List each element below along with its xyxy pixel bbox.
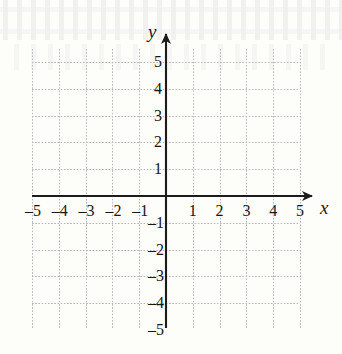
x-tick-label-4: 4 <box>264 203 282 219</box>
y-tick-label-2: 2 <box>140 134 162 150</box>
y-tick-label-3: 3 <box>140 108 162 124</box>
x-tick-label-1: 1 <box>184 203 202 219</box>
x-tick-label--4: –4 <box>49 203 71 219</box>
y-tick-label--5: –5 <box>138 322 164 338</box>
x-axis-label: x <box>320 198 328 217</box>
y-axis-label: y <box>148 22 156 41</box>
x-tick-label--3: –3 <box>76 203 98 219</box>
x-tick-label--1: –1 <box>129 203 151 219</box>
y-tick-label-4: 4 <box>140 81 162 97</box>
axes-layer <box>0 0 342 354</box>
coordinate-plane-figure: y x 54321–1–2–3–4–512345–5–4–3–2–1 <box>0 0 342 354</box>
x-tick-label-2: 2 <box>211 203 229 219</box>
y-tick-label--2: –2 <box>138 242 164 258</box>
y-tick-label--4: –4 <box>138 295 164 311</box>
x-tick-label-3: 3 <box>237 203 255 219</box>
y-tick-label-5: 5 <box>140 54 162 70</box>
x-tick-label-5: 5 <box>291 203 309 219</box>
y-tick-label--3: –3 <box>138 268 164 284</box>
x-tick-label--5: –5 <box>22 203 44 219</box>
x-tick-label--2: –2 <box>102 203 124 219</box>
y-tick-label-1: 1 <box>140 161 162 177</box>
